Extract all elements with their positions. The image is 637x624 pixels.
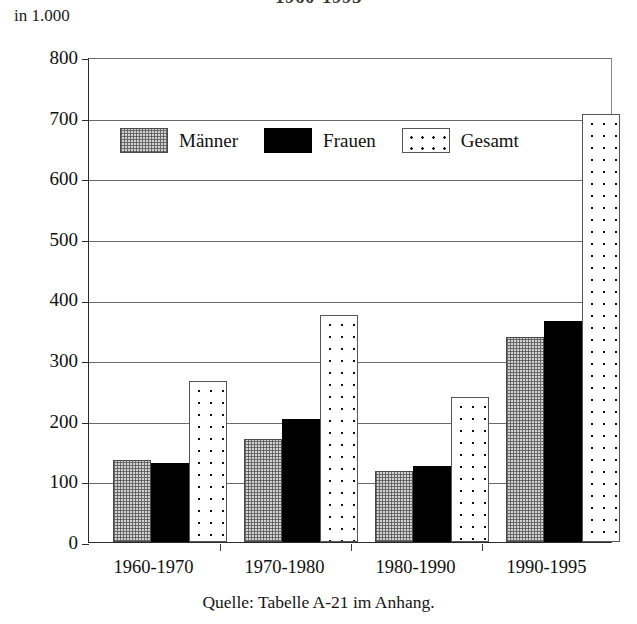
y-tick-mark-700 [82, 120, 89, 121]
legend-swatch-maenner-icon [120, 128, 168, 153]
bar-maenner-1980-1990[interactable] [375, 471, 413, 543]
bar-gesamt-1990-1995[interactable] [582, 114, 620, 543]
y-tick-label: 300 [8, 351, 78, 370]
y-tick-label: 800 [8, 48, 78, 67]
x-tick-label-1970-1980: 1970-1980 [219, 556, 350, 578]
y-tick-label: 0 [8, 533, 78, 552]
legend-item-frauen[interactable]: Frauen [264, 128, 376, 153]
y-tick-mark-400 [82, 302, 89, 303]
y-tick-mark-500 [82, 241, 89, 242]
bar-gesamt-1970-1980[interactable] [320, 315, 358, 542]
y-tick-mark-100 [82, 483, 89, 484]
legend-item-maenner[interactable]: Männer [120, 128, 238, 153]
gridline-500 [89, 241, 611, 242]
y-tick-label: 400 [8, 290, 78, 309]
bar-maenner-1970-1980[interactable] [244, 439, 282, 542]
bar-frauen-1960-1970[interactable] [151, 463, 189, 542]
y-tick-label: 200 [8, 412, 78, 431]
gridline-600 [89, 180, 611, 181]
bar-frauen-1990-1995[interactable] [544, 321, 582, 542]
chart-legend: Männer Frauen Gesamt [120, 128, 519, 153]
bar-maenner-1990-1995[interactable] [506, 337, 544, 542]
y-tick-label: 700 [8, 109, 78, 128]
legend-label-gesamt: Gesamt [461, 131, 519, 150]
x-tick-mark-3 [482, 544, 483, 551]
gridline-700 [89, 120, 611, 121]
bar-maenner-1960-1970[interactable] [113, 460, 151, 542]
legend-swatch-gesamt-icon [402, 128, 450, 153]
bar-gesamt-1960-1970[interactable] [189, 381, 227, 542]
bar-gesamt-1980-1990[interactable] [451, 397, 489, 543]
legend-label-frauen: Frauen [323, 131, 376, 150]
bar-frauen-1970-1980[interactable] [282, 419, 320, 542]
y-tick-label: 600 [8, 169, 78, 188]
x-tick-label-1990-1995: 1990-1995 [481, 556, 612, 578]
chart-canvas: 800 700 600 500 400 300 200 100 0 [0, 0, 637, 624]
y-tick-mark-0 [82, 544, 89, 545]
legend-item-gesamt[interactable]: Gesamt [402, 128, 519, 153]
x-tick-label-1980-1990: 1980-1990 [350, 556, 481, 578]
source-note: Quelle: Tabelle A-21 im Anhang. [0, 592, 637, 612]
y-tick-mark-600 [82, 180, 89, 181]
bar-frauen-1980-1990[interactable] [413, 466, 451, 542]
legend-label-maenner: Männer [179, 131, 238, 150]
y-tick-mark-200 [82, 423, 89, 424]
x-tick-mark-1 [220, 544, 221, 551]
y-tick-label: 100 [8, 472, 78, 491]
y-tick-mark-300 [82, 362, 89, 363]
gridline-400 [89, 302, 611, 303]
y-tick-mark-800 [82, 59, 89, 60]
x-tick-mark-2 [351, 544, 352, 551]
x-tick-label-1960-1970: 1960-1970 [88, 556, 219, 578]
y-tick-label: 500 [8, 230, 78, 249]
legend-swatch-frauen-icon [264, 128, 312, 153]
